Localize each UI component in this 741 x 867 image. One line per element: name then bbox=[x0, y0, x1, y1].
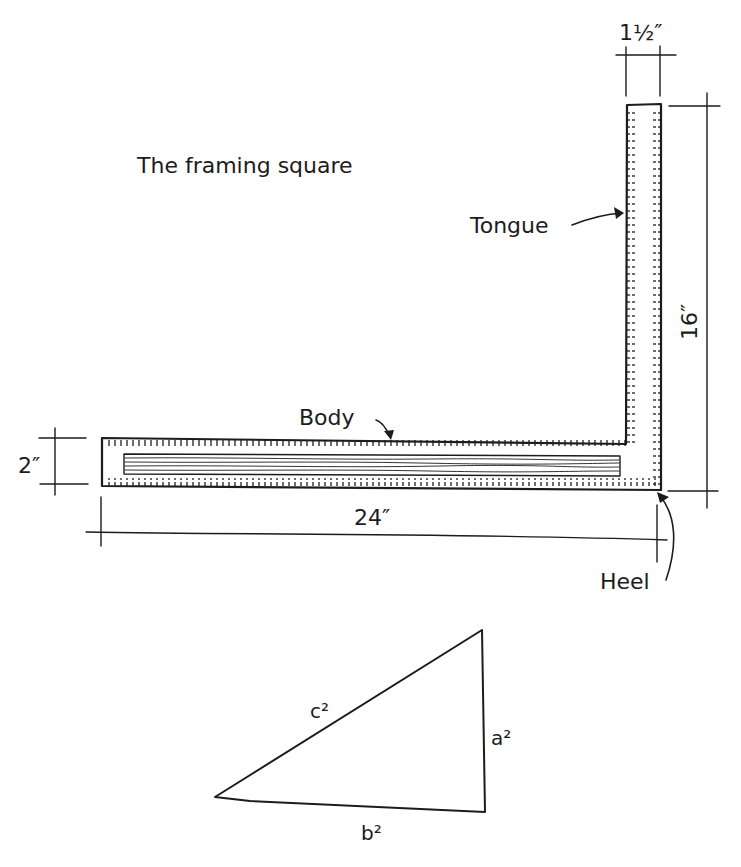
hypotenuse-label: c² bbox=[310, 699, 329, 723]
heel-label: Heel bbox=[600, 569, 650, 594]
tongue-arrow bbox=[572, 213, 622, 225]
tongue-label: Tongue bbox=[469, 213, 549, 238]
heel-arrowhead-icon bbox=[657, 492, 669, 503]
base-label: b² bbox=[361, 821, 382, 845]
right-triangle: c² a² b² bbox=[215, 630, 511, 845]
tongue-width-value: 1½″ bbox=[619, 20, 663, 45]
dim-tongue-length: 16″ bbox=[668, 93, 720, 508]
diagram-title: The framing square bbox=[136, 153, 353, 178]
tongue-arrowhead-icon bbox=[614, 207, 624, 219]
tongue-ticks-left bbox=[627, 110, 635, 444]
dim-body-width: 2″ bbox=[18, 428, 88, 495]
body-grain-panel bbox=[124, 454, 620, 476]
tongue-ticks-right bbox=[653, 110, 661, 486]
body-length-value: 24″ bbox=[354, 505, 390, 530]
body-ticks-top bbox=[104, 439, 626, 447]
framing-square-diagram: The framing square Tongue Body Heel bbox=[0, 0, 741, 867]
body-width-value: 2″ bbox=[18, 453, 40, 478]
triangle-outline bbox=[215, 630, 485, 812]
vertical-side-label: a² bbox=[491, 726, 511, 750]
tongue-length-value: 16″ bbox=[677, 304, 702, 340]
body-label: Body bbox=[299, 405, 355, 430]
body-arrowhead-icon bbox=[384, 430, 394, 440]
dim-tongue-width: 1½″ bbox=[616, 20, 676, 96]
dim-body-length: 24″ bbox=[86, 497, 667, 562]
heel-arrow bbox=[660, 496, 674, 580]
body-ticks-bottom bbox=[104, 478, 656, 486]
